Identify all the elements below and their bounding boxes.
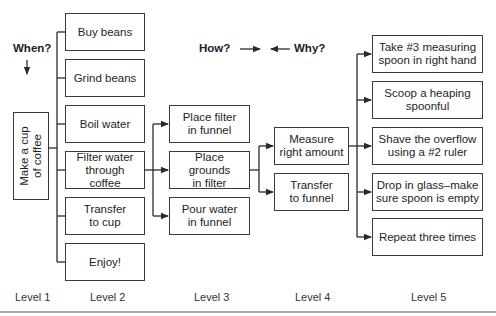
level2-item-buy-beans: Buy beans	[65, 13, 145, 51]
level-label-1: Level 1	[15, 291, 50, 303]
level5-item-drop: Drop in glass–make sure spoon is empty	[372, 173, 483, 211]
level2-item-transfer-to-cup: Transfer to cup	[65, 197, 145, 235]
level5-item-shave: Shave the overflow using a #2 ruler	[372, 127, 483, 165]
when-label: When?	[13, 42, 51, 54]
level-label-3: Level 3	[194, 291, 229, 303]
level-label-5: Level 5	[411, 291, 446, 303]
level-label-2: Level 2	[90, 291, 125, 303]
level5-item-take-spoon: Take #3 measuring spoon in right hand	[372, 35, 483, 73]
level2-item-boil-water: Boil water	[65, 105, 145, 143]
level2-item-filter-water: Filter water through coffee	[65, 151, 145, 189]
level2-item-enjoy: Enjoy!	[65, 243, 145, 281]
level-label-4: Level 4	[295, 291, 330, 303]
level5-item-scoop: Scoop a heaping spoonful	[372, 81, 483, 119]
level3-item-place-grounds: Place grounds in filter	[169, 151, 250, 189]
level4-item-transfer-to-funnel: Transfer to funnel	[274, 173, 349, 211]
level1-root-text: Make a cup of coffee	[18, 112, 44, 200]
level4-item-measure: Measure right amount	[274, 127, 349, 165]
level2-item-grind-beans: Grind beans	[65, 59, 145, 97]
level1-root-box: Make a cup of coffee	[13, 112, 49, 200]
how-label: How?	[199, 42, 230, 54]
level5-item-repeat: Repeat three times	[372, 218, 483, 256]
level3-item-place-filter: Place filter in funnel	[169, 105, 250, 143]
level3-item-pour-water: Pour water in funnel	[169, 197, 250, 235]
why-label: Why?	[294, 42, 325, 54]
